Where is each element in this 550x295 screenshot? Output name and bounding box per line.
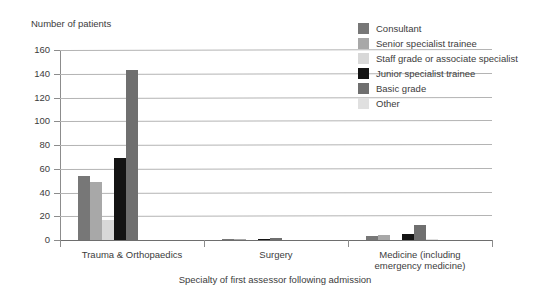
legend-item-label: Junior specialist trainee (376, 68, 475, 79)
legend-item[interactable]: Junior specialist trainee (358, 66, 518, 81)
bar (114, 158, 126, 240)
y-axis-tick-label: 160 (20, 44, 50, 55)
x-axis-label-line: Medicine (including (348, 249, 492, 260)
legend-item[interactable]: Consultant (358, 21, 518, 36)
y-axis-tick-label: 40 (20, 187, 50, 198)
x-axis-category-label: Medicine (includingemergency medicine) (348, 249, 492, 271)
bar (78, 176, 90, 240)
bar (270, 238, 282, 240)
x-axis-tick (492, 240, 493, 247)
y-axis-tick (54, 169, 60, 170)
y-axis-tick (54, 50, 60, 51)
legend-swatch-icon (358, 68, 369, 79)
x-axis-tick (204, 240, 205, 247)
y-axis-tick (54, 216, 60, 217)
legend-swatch-icon (358, 23, 369, 34)
legend-item[interactable]: Staff grade or associate specialist (358, 51, 518, 66)
y-axis-tick (54, 193, 60, 194)
bar-chart: Number of patients Specialty of first as… (0, 0, 550, 295)
x-axis-category-label: Trauma & Orthopaedics (60, 249, 204, 260)
x-axis-label-line: emergency medicine) (348, 260, 492, 271)
bar-group (222, 50, 294, 240)
bar (378, 235, 390, 240)
bar (90, 182, 102, 240)
bar (258, 239, 270, 240)
legend-swatch-icon (358, 98, 369, 109)
y-axis-tick-label: 120 (20, 92, 50, 103)
legend-item[interactable]: Other (358, 96, 518, 111)
x-axis-category-label: Surgery (204, 249, 348, 260)
y-axis-tick (54, 145, 60, 146)
legend-swatch-icon (358, 38, 369, 49)
legend-swatch-icon (358, 53, 369, 64)
bar (234, 239, 246, 240)
legend-swatch-icon (358, 83, 369, 94)
y-axis-tick (54, 74, 60, 75)
chart-legend: ConsultantSenior specialist traineeStaff… (358, 21, 518, 111)
bar (126, 70, 138, 240)
legend-item-label: Basic grade (376, 83, 426, 94)
bar (402, 234, 414, 240)
bar (366, 236, 378, 240)
bar (414, 225, 426, 240)
x-axis-tick (348, 240, 349, 247)
legend-item-label: Staff grade or associate specialist (376, 53, 518, 64)
y-axis-tick-label: 80 (20, 139, 50, 150)
y-axis-tick-label: 140 (20, 68, 50, 79)
y-axis-tick (54, 121, 60, 122)
x-axis-label-line: Surgery (204, 249, 348, 260)
legend-item-label: Other (376, 98, 400, 109)
x-axis-tick (60, 240, 61, 247)
x-axis-label-line: Trauma & Orthopaedics (60, 249, 204, 260)
y-axis-tick-label: 60 (20, 163, 50, 174)
y-axis-tick (54, 98, 60, 99)
y-axis-title: Number of patients (31, 18, 111, 29)
x-axis-title: Specialty of first assessor following ad… (0, 274, 550, 285)
x-axis-line (60, 240, 492, 241)
bar (426, 239, 438, 240)
bar-group (78, 50, 150, 240)
y-axis-tick-label: 0 (20, 234, 50, 245)
legend-item[interactable]: Basic grade (358, 81, 518, 96)
bar (222, 239, 234, 240)
legend-item-label: Consultant (376, 23, 421, 34)
y-axis-tick-label: 20 (20, 210, 50, 221)
bar (102, 220, 114, 240)
legend-item-label: Senior specialist trainee (376, 38, 477, 49)
legend-item[interactable]: Senior specialist trainee (358, 36, 518, 51)
y-axis-tick-label: 100 (20, 115, 50, 126)
